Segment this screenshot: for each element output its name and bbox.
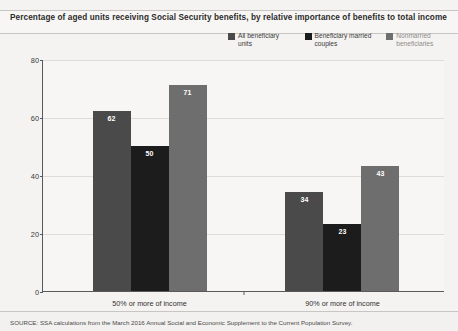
- legend-label: Nonmarried beneficiaries: [396, 32, 458, 47]
- bar-group: 625071: [93, 60, 207, 291]
- legend-label: Beneficiary married couples: [315, 32, 377, 47]
- y-tick-mark: [40, 176, 43, 177]
- y-tick-mark: [40, 118, 43, 119]
- plot-canvas: 02040608062507150% or more of income3423…: [42, 60, 444, 292]
- bar: 43: [361, 166, 399, 291]
- bar-value-label: 62: [93, 115, 131, 122]
- y-tick-mark: [40, 60, 43, 61]
- legend-item-1: Beneficiary married couples: [305, 32, 377, 47]
- chart-legend: All beneficiary unitsBeneficiary married…: [228, 32, 458, 47]
- bar: 62: [93, 111, 131, 291]
- y-tick-label: 20: [31, 230, 39, 239]
- bar: 50: [131, 146, 169, 291]
- legend-swatch-icon: [386, 33, 393, 40]
- bar: 34: [285, 192, 323, 291]
- x-tick-mark: [244, 291, 245, 295]
- chart-page: Percentage of aged units receiving Socia…: [0, 0, 458, 331]
- y-tick-label: 80: [31, 56, 39, 65]
- y-tick-label: 40: [31, 172, 39, 181]
- bar: 23: [323, 224, 361, 291]
- legend-item-0: All beneficiary units: [228, 32, 295, 47]
- y-tick-label: 60: [31, 114, 39, 123]
- bar-group: 342343: [285, 60, 399, 291]
- legend-swatch-icon: [305, 33, 312, 40]
- legend-item-2: Nonmarried beneficiaries: [386, 32, 458, 47]
- bar-value-label: 34: [285, 196, 323, 203]
- x-axis-category-label: 90% or more of income: [305, 299, 379, 308]
- source-note: SOURCE: SSA calculations from the March …: [10, 319, 352, 326]
- bar-value-label: 23: [323, 228, 361, 235]
- y-tick-label: 0: [35, 288, 39, 297]
- plot-area: Percent 02040608062507150% or more of in…: [42, 60, 444, 292]
- legend-label: All beneficiary units: [238, 32, 295, 47]
- bar-value-label: 71: [169, 89, 207, 96]
- bar: 71: [169, 85, 207, 291]
- y-tick-mark: [40, 234, 43, 235]
- legend-swatch-icon: [228, 33, 235, 40]
- y-tick-mark: [40, 292, 43, 293]
- x-axis-category-label: 50% or more of income: [112, 299, 186, 308]
- bar-value-label: 43: [361, 170, 399, 177]
- page-title: Percentage of aged units receiving Socia…: [10, 13, 447, 22]
- bar-value-label: 50: [131, 150, 169, 157]
